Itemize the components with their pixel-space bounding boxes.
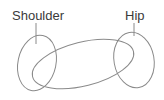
torso-diagram: Shoulder Hip <box>0 0 164 100</box>
torso-body-shape <box>27 30 139 98</box>
hip-ellipse <box>109 29 158 91</box>
hip-label: Hip <box>125 8 145 23</box>
shoulder-label: Shoulder <box>12 8 65 23</box>
